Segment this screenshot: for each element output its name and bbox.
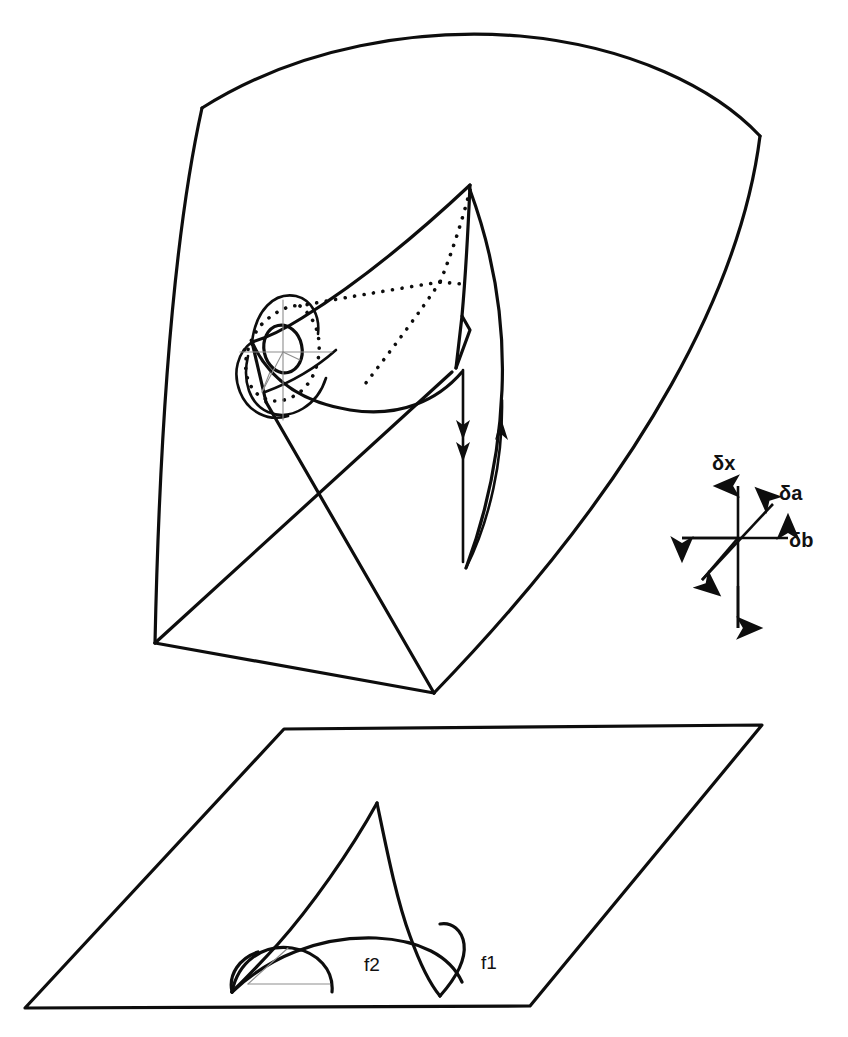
left-lobe-detail [231, 947, 332, 992]
cusp-left-branch [232, 803, 377, 992]
axis-label-delta-x: δx [712, 452, 735, 474]
axis-delta-a-negative [702, 538, 738, 580]
sweep-outer-curve [466, 190, 502, 568]
upper-panel [155, 34, 760, 693]
swallowtail-diagram-svg: δx δa δb f2 f1 [0, 0, 848, 1037]
axis-label-delta-b: δb [789, 529, 813, 551]
fold-label-f1: f1 [481, 952, 497, 973]
shield-bottom-left-edge [155, 643, 434, 693]
dotted-node-to-right [440, 282, 462, 284]
dotted-long-diagonal [362, 282, 440, 388]
lower-panel: f2 f1 [25, 725, 762, 1008]
cusp-right-branch [377, 803, 440, 996]
dotted-node-to-left [300, 282, 440, 306]
cusp-right-spine [456, 185, 470, 368]
coordinate-axes-legend: δx δa δb [682, 452, 813, 628]
leg-right-long [155, 372, 452, 643]
shield-left-edge [155, 108, 202, 643]
right-sweep-fold [466, 190, 502, 568]
surface-legs [155, 372, 452, 693]
shield-right-edge [434, 136, 760, 693]
umbilic-tick-c [283, 352, 300, 360]
leg-left-long [266, 402, 434, 693]
umbilic-tick-b [262, 372, 270, 392]
lobe-outline [232, 947, 332, 992]
umbilic-outer-arc-top [252, 295, 318, 342]
parameter-plane-parallelogram [25, 725, 762, 1008]
flow-up-curve [466, 400, 502, 568]
figure-root: δx δa δb f2 f1 [0, 0, 848, 1037]
shield-top-edge [202, 34, 760, 136]
cusp-upper-edge [252, 185, 470, 342]
fold-label-f2: f2 [364, 954, 380, 975]
axis-label-delta-a: δa [779, 482, 803, 504]
cusp-surface [252, 185, 470, 412]
